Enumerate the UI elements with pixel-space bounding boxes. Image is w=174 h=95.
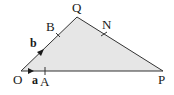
triangle-OQP [21, 17, 163, 71]
label-Q: Q [72, 0, 82, 15]
triangle-diagram: O Q P B N A a b [0, 0, 174, 95]
label-vector-a: a [32, 73, 38, 87]
label-O: O [13, 72, 22, 87]
label-B: B [46, 19, 55, 34]
label-N: N [102, 17, 112, 32]
label-A: A [40, 74, 50, 89]
label-P: P [158, 72, 165, 87]
label-vector-b: b [30, 36, 37, 50]
